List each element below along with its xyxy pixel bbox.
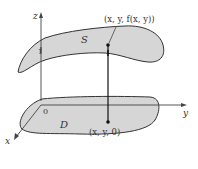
unit-tick-label: 1 [38,48,42,56]
region-label: D [59,119,68,130]
surface-over-region-diagram: z 1 S (x, y, f(x, y)) 0 D (x, y, 0) y x [0,0,198,169]
y-axis-label: y [182,108,189,118]
origin-label: 0 [43,107,48,116]
x-axis-label: x [5,136,10,146]
surface-point-label: (x, y, f(x, y)) [104,14,155,24]
y-axis-arrow-icon [181,103,187,107]
z-axis-label: z [32,11,38,21]
surface-label: S [81,34,88,45]
surface-point [106,43,110,47]
region-point [106,120,110,124]
z-axis-arrow-icon [39,12,43,18]
region-point-label: (x, y, 0) [89,127,120,137]
